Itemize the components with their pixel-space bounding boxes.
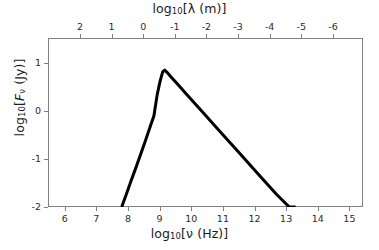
top-tick-mark xyxy=(112,34,113,38)
x-tick-label: 15 xyxy=(334,213,364,224)
bottom-axis-title: log10[ν (Hz)] xyxy=(0,226,379,241)
top-tick-label: -5 xyxy=(286,21,316,32)
spectrum-figure: log10[λ (m)] log10[ν (Hz)] log10[Fν (Jy)… xyxy=(0,0,379,250)
x-tick-label: 6 xyxy=(50,213,80,224)
top-tick-label: -3 xyxy=(223,21,253,32)
top-tick-label: -6 xyxy=(318,21,348,32)
x-tick-label: 9 xyxy=(145,213,175,224)
y-tick-label: -1 xyxy=(19,153,41,164)
x-tick-label: 14 xyxy=(303,213,333,224)
top-tick-mark xyxy=(143,34,144,38)
top-tick-mark xyxy=(238,34,239,38)
x-tick-mark xyxy=(160,207,161,211)
top-tick-mark xyxy=(206,34,207,38)
y-tick-mark xyxy=(44,207,48,208)
top-tick-label: 0 xyxy=(128,21,158,32)
top-tick-mark xyxy=(80,34,81,38)
x-tick-mark xyxy=(223,207,224,211)
y-tick-mark xyxy=(44,159,48,160)
top-tick-label: 2 xyxy=(65,21,95,32)
y-tick-label: 0 xyxy=(19,105,41,116)
x-tick-mark xyxy=(191,207,192,211)
x-tick-label: 11 xyxy=(208,213,238,224)
x-tick-label: 10 xyxy=(176,213,206,224)
x-tick-label: 8 xyxy=(113,213,143,224)
y-tick-mark xyxy=(44,63,48,64)
x-tick-mark xyxy=(286,207,287,211)
y-tick-label: 1 xyxy=(19,57,41,68)
top-tick-label: -2 xyxy=(191,21,221,32)
y-tick-label: -2 xyxy=(19,201,41,212)
x-tick-mark xyxy=(318,207,319,211)
top-tick-label: -1 xyxy=(160,21,190,32)
top-axis-title: log10[λ (m)] xyxy=(0,1,379,16)
x-tick-mark xyxy=(65,207,66,211)
top-tick-mark xyxy=(270,34,271,38)
top-tick-mark xyxy=(301,34,302,38)
spectrum-curve xyxy=(122,70,296,207)
x-tick-mark xyxy=(128,207,129,211)
top-tick-label: -4 xyxy=(255,21,285,32)
y-tick-mark xyxy=(44,111,48,112)
plot-canvas xyxy=(48,38,363,207)
y-axis-title: log10[Fν (Jy)] xyxy=(12,59,27,137)
x-tick-label: 13 xyxy=(271,213,301,224)
top-tick-mark xyxy=(333,34,334,38)
top-tick-mark xyxy=(175,34,176,38)
x-tick-mark xyxy=(349,207,350,211)
x-tick-mark xyxy=(255,207,256,211)
x-tick-label: 12 xyxy=(240,213,270,224)
x-tick-mark xyxy=(96,207,97,211)
x-tick-label: 7 xyxy=(81,213,111,224)
top-tick-label: 1 xyxy=(97,21,127,32)
